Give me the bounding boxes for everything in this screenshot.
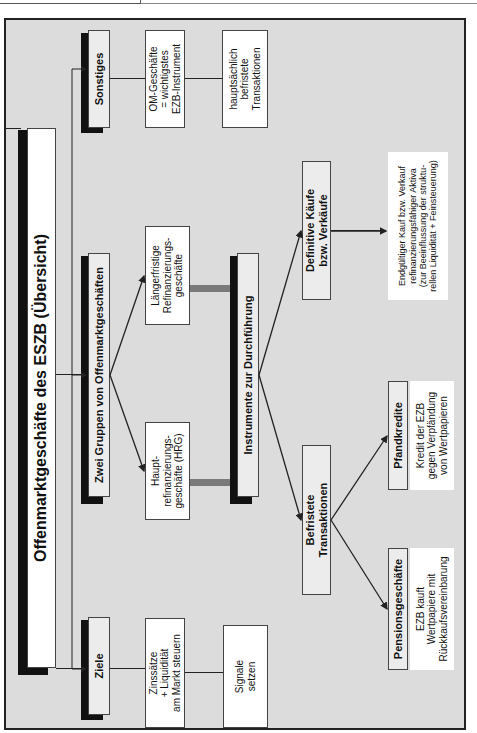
desc-text: EZB kauft Wertpapiere mit Rückkaufsverei…: [415, 556, 450, 661]
sonstiges-item-befristete: hauptsächlich befristete Transaktionen: [222, 30, 268, 128]
diagram-title: Offenmarktgeschäfte des ESZB (Übersicht): [27, 128, 56, 668]
befristete-header: Befristete Transaktionen: [302, 445, 331, 595]
connector: [331, 230, 386, 231]
gray-connector: [190, 479, 230, 486]
group-hrg: Haupt- refinanzierungs- geschäfte (HRG): [145, 422, 190, 520]
connector: [110, 78, 145, 79]
pensionsgeschaefte-desc: EZB kauft Wertpapiere mit Rückkaufsverei…: [410, 548, 454, 670]
zwei-gruppen-label: Zwei Gruppen von Offenmarktgeschäften: [93, 267, 106, 483]
ziele-item-zinssaetze: Zinssätze + Liquidität am Markt steuern: [145, 618, 185, 728]
pfandkredite-desc: Kredit der EZB gegen Verpfändung von Wer…: [410, 381, 454, 490]
definitive-desc: Endgültiger Kauf bzw. Verkauf refinanzie…: [388, 152, 448, 300]
ziele-item-signale: Signale setzen: [223, 625, 268, 728]
desc-text: Kredit der EZB gegen Verpfändung von Wer…: [415, 392, 450, 479]
connector: [5, 128, 21, 129]
pensions-label: Pensionsgeschäfte: [392, 559, 405, 659]
connector: [56, 668, 72, 669]
pfandkredite-header: Pfandkredite: [388, 381, 408, 490]
zwei-gruppen-header: Zwei Gruppen von Offenmarktgeschäften: [88, 253, 110, 497]
item-text: Haupt- refinanzierungs- geschäfte (HRG): [150, 433, 185, 508]
sonstiges-label: Sonstiges: [93, 53, 106, 106]
definitive-header: Definitive Käufe bzw. Verkäufe: [302, 161, 331, 300]
item-text: Signale setzen: [234, 660, 257, 693]
item-text: Längerfristige Refinanzierungs- geschäft…: [150, 238, 185, 314]
pensionsgeschaefte-header: Pensionsgeschäfte: [388, 548, 408, 670]
befristete-label: Befristete Transaktionen: [304, 483, 329, 558]
instrumente-label: Instrumente zur Durchführung: [242, 296, 255, 455]
instrumente-header: Instrumente zur Durchführung: [237, 253, 259, 497]
item-text: OM-Geschäfte = wichtigstes EZB-Instrumen…: [148, 44, 183, 114]
sonstiges-header: Sonstiges: [88, 30, 110, 128]
connector: [110, 668, 145, 669]
ziele-label: Ziele: [93, 653, 106, 678]
definitive-label: Definitive Käufe bzw. Verkäufe: [304, 189, 329, 272]
title-text: Offenmarktgeschäfte des ESZB (Übersicht): [32, 234, 50, 562]
ziele-header: Ziele: [88, 617, 110, 715]
item-text: Zinssätze + Liquidität am Markt steuern: [148, 634, 183, 712]
item-text: hauptsächlich befristete Transaktionen: [228, 48, 263, 111]
group-laengerfristige: Längerfristige Refinanzierungs- geschäft…: [145, 226, 190, 325]
connector: [185, 78, 222, 79]
sonstiges-item-om: OM-Geschäfte = wichtigstes EZB-Instrumen…: [145, 30, 185, 128]
gray-connector: [190, 285, 230, 292]
pfand-label: Pfandkredite: [392, 402, 405, 469]
desc-text: Endgültiger Kauf bzw. Verkauf refinanzie…: [397, 160, 438, 291]
connector: [185, 672, 223, 673]
